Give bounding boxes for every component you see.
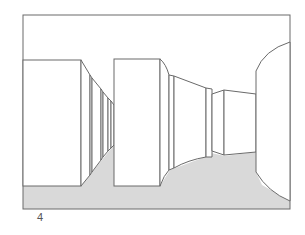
figure-label: 4	[37, 211, 43, 223]
pillar	[169, 75, 174, 170]
left-receding-wall	[81, 60, 90, 186]
curved-wall	[174, 76, 206, 168]
left-front-wall	[23, 60, 81, 186]
center-block	[114, 59, 160, 186]
recess-wall	[212, 90, 224, 155]
pillar	[206, 88, 212, 157]
corridor-drawing	[0, 0, 305, 235]
back-wall	[224, 90, 256, 155]
right-curved-wall	[256, 42, 290, 201]
center-side-wall	[160, 59, 169, 186]
left-receding-wall	[103, 92, 108, 157]
left-receding-wall	[92, 78, 101, 172]
